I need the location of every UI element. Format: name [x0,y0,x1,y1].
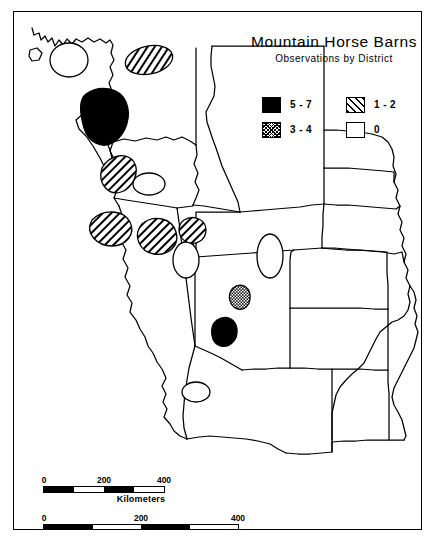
scalebar-segment [104,487,134,492]
scalebar-bar [43,486,165,493]
district-3-4 [229,285,250,309]
district-1-2 [123,41,176,78]
scalebar-bar [43,524,239,530]
legend-entry-0: 0 [346,117,422,142]
scalebar-segment [134,487,164,492]
scalebar-caption: Kilometers [43,494,239,504]
district-5-7 [81,88,129,145]
title-block: Mountain Horse Barns Observations by Dis… [236,34,422,64]
scalebar-segment [44,525,93,530]
legend-label: 1 - 2 [374,99,396,110]
scalebar-kilometers: 0 200 400 Kilometers [43,475,239,504]
legend-entry-3-4: 3 - 4 [262,117,346,142]
scalebar-segment [93,525,142,530]
legend-swatch-empty-white-icon [346,122,365,138]
scalebar-tick-labels: 0 200 400 [43,513,239,524]
district-1-2 [101,156,136,193]
scalebar-tick: 400 [231,513,245,523]
district-0 [133,173,165,195]
district-symbols [50,41,283,402]
page-title: Mountain Horse Barns [236,34,422,50]
legend-swatch-stipple-icon [262,122,281,138]
scalebar-tick: 0 [42,513,47,523]
district-0 [257,234,283,278]
legend-entry-1-2: 1 - 2 [346,92,422,117]
legend-swatch-solid-black-icon [262,97,281,113]
legend-entry-5-7: 5 - 7 [262,92,346,117]
legend-label: 3 - 4 [290,124,312,135]
scalebar-tick: 0 [42,475,47,485]
scalebar-tick: 200 [97,475,111,485]
district-1-2 [179,218,206,244]
legend-swatch-diagonal-hatch-icon [346,97,365,113]
district-0 [182,382,210,402]
scalebar-segment [74,487,104,492]
scalebar-segment [141,525,190,530]
scalebar-segment [190,525,239,530]
district-1-2 [138,218,177,254]
page-subtitle: Observations by District [236,53,422,64]
district-0 [173,242,199,278]
legend: 5 - 7 1 - 2 3 - 4 0 [262,92,422,142]
map-figure: Mountain Horse Barns Observations by Dis… [0,0,435,551]
scalebar-miles: 0 200 400 Miles [43,513,239,530]
legend-label: 0 [374,124,380,135]
district-1-2 [90,212,132,246]
scalebar-tick-labels: 0 200 400 [43,475,239,486]
map-graphic [14,12,420,528]
scalebar-tick: 200 [134,513,148,523]
legend-label: 5 - 7 [290,99,312,110]
scalebar-segment [44,487,74,492]
map-neatline-frame: Mountain Horse Barns Observations by Dis… [13,11,422,530]
district-5-7 [212,317,237,346]
district-0 [50,43,88,77]
scalebars: 0 200 400 Kilometers 0 200 400 [43,475,239,530]
scalebar-tick: 400 [157,475,171,485]
